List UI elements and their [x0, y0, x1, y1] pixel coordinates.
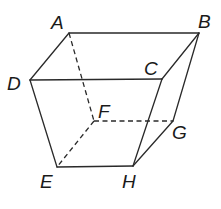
vertex-label-d: D	[7, 73, 21, 94]
edge-cb	[162, 33, 199, 79]
edge-gh	[133, 121, 173, 166]
vertex-label-a: A	[50, 12, 64, 33]
edge-bg	[173, 33, 199, 121]
vertex-label-g: G	[172, 122, 187, 143]
edge-dc	[30, 79, 162, 80]
solid-figure: A B C D E F G H	[0, 0, 221, 209]
vertex-label-f: F	[98, 101, 111, 122]
edge-de	[30, 80, 57, 167]
vertex-label-h: H	[122, 171, 136, 192]
edges	[30, 33, 199, 167]
vertex-label-b: B	[198, 11, 211, 32]
hidden-edge-fe	[57, 121, 94, 167]
edge-ch	[133, 79, 162, 166]
hidden-edge-af	[69, 33, 94, 121]
vertex-labels: A B C D E F G H	[7, 11, 211, 192]
vertex-label-c: C	[144, 58, 158, 79]
edge-eh	[57, 166, 133, 167]
vertex-label-e: E	[40, 171, 53, 192]
edge-ad	[30, 33, 69, 80]
